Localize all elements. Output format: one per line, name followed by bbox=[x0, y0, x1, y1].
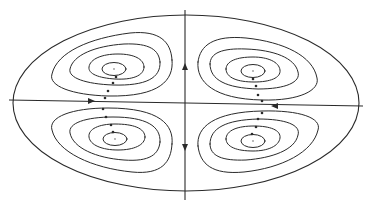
flow-marker bbox=[257, 118, 260, 121]
streamline bbox=[210, 49, 298, 89]
horizontal-axis bbox=[9, 100, 363, 106]
flow-marker bbox=[102, 108, 105, 111]
flow-marker bbox=[255, 85, 258, 88]
cell-lower-left bbox=[52, 108, 173, 173]
flow-marker bbox=[107, 90, 110, 93]
flow-marker bbox=[115, 76, 118, 79]
streamline bbox=[210, 119, 298, 160]
vortex-flow-diagram bbox=[0, 0, 370, 206]
flow-marker bbox=[261, 100, 264, 103]
flow-marker bbox=[257, 94, 260, 97]
flow-marker bbox=[255, 126, 258, 129]
streamline bbox=[52, 108, 173, 172]
flow-marker bbox=[104, 97, 107, 100]
arrow-up-icon bbox=[182, 63, 188, 70]
vortex-center-point bbox=[114, 138, 116, 140]
flow-marker bbox=[105, 116, 108, 119]
arrow-left-icon bbox=[271, 103, 278, 109]
flow-marker bbox=[112, 131, 115, 134]
vortex-center-point bbox=[252, 140, 254, 142]
streamline bbox=[52, 33, 173, 97]
flow-marker bbox=[251, 133, 254, 136]
flow-marker bbox=[110, 124, 113, 127]
streamline bbox=[89, 124, 145, 150]
vortex-center-point bbox=[252, 70, 254, 72]
arrow-right-icon bbox=[88, 98, 95, 104]
flow-marker bbox=[252, 78, 255, 81]
cell-upper-left bbox=[52, 33, 173, 100]
cell-upper-right bbox=[198, 37, 317, 102]
vortex-center-point bbox=[113, 68, 115, 70]
arrow-down-icon bbox=[182, 144, 188, 151]
streamline bbox=[198, 37, 317, 100]
flow-marker bbox=[112, 82, 115, 85]
flow-marker bbox=[261, 112, 264, 115]
cell-lower-right bbox=[198, 111, 319, 173]
